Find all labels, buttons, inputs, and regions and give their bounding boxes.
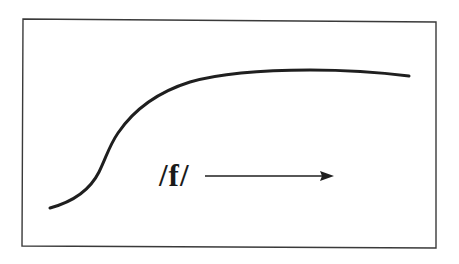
response-curve xyxy=(50,70,409,208)
figure-frame xyxy=(22,19,436,248)
arrow-right-icon xyxy=(320,171,334,181)
figure-canvas xyxy=(0,0,459,264)
phoneme-label: /f/ xyxy=(159,160,190,191)
